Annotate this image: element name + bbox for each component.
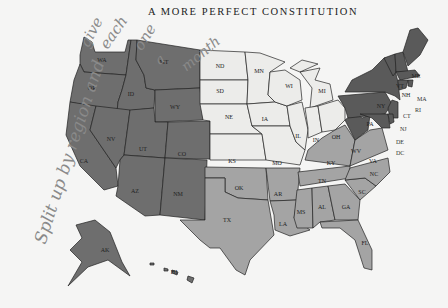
label-nc: NC <box>370 171 378 177</box>
state-ak <box>68 220 130 286</box>
label-ia: IA <box>262 116 269 122</box>
label-wi: WI <box>285 83 293 89</box>
label-ak: AK <box>101 247 110 253</box>
label-hi: HI <box>171 269 177 275</box>
book-page: A MORE PERFECT CONSTITUTION <box>0 0 448 308</box>
label-ct: CT <box>403 113 411 119</box>
label-sd: SD <box>216 88 224 94</box>
label-ky: KY <box>327 160 336 166</box>
state-co <box>165 121 210 159</box>
state-ms <box>294 188 313 228</box>
label-wv: WV <box>351 148 362 154</box>
state-ks <box>210 134 266 160</box>
label-wy: WY <box>170 104 181 110</box>
state-ar <box>266 168 300 201</box>
label-de: DE <box>396 139 404 145</box>
label-il: IL <box>295 133 301 139</box>
label-dc: DC <box>396 150 404 156</box>
label-ma: MA <box>417 96 427 102</box>
label-pa: PA <box>366 121 374 127</box>
label-va: VA <box>369 158 378 164</box>
label-ks: KS <box>228 158 236 164</box>
label-me: ME <box>412 73 421 79</box>
state-me <box>403 28 428 66</box>
label-nj: NJ <box>400 126 407 132</box>
label-ca: CA <box>80 158 89 164</box>
label-co: CO <box>178 151 187 157</box>
label-al: AL <box>318 204 326 210</box>
region-northeast <box>338 28 428 140</box>
label-ga: GA <box>342 204 351 210</box>
label-la: LA <box>279 221 288 227</box>
label-nm: NM <box>173 191 183 197</box>
label-ok: OK <box>235 185 244 191</box>
label-ar: AR <box>274 191 282 197</box>
state-sd <box>200 80 248 104</box>
label-ne: NE <box>225 114 233 120</box>
label-ut: UT <box>139 146 147 152</box>
state-nm <box>160 158 207 220</box>
label-sc: SC <box>358 189 365 195</box>
state-ia <box>247 102 290 126</box>
label-fl: FL <box>361 240 368 246</box>
label-oh: OH <box>332 134 341 140</box>
label-in: IN <box>313 137 320 143</box>
label-tn: TN <box>318 178 327 184</box>
label-nh: NH <box>402 92 411 98</box>
label-mo: MO <box>272 160 282 166</box>
label-ri: RI <box>415 107 421 113</box>
label-tx: TX <box>223 217 232 223</box>
label-nv: NV <box>107 136 116 142</box>
label-mn: MN <box>254 68 264 74</box>
state-ri <box>408 80 413 87</box>
label-az: AZ <box>131 188 139 194</box>
label-ny: NY <box>377 103 386 109</box>
label-ms: MS <box>297 209 306 215</box>
label-nd: ND <box>216 63 225 69</box>
state-az <box>116 155 165 216</box>
label-mi: MI <box>318 88 325 94</box>
label-id: ID <box>128 91 135 97</box>
label-vt: VT <box>396 83 404 89</box>
